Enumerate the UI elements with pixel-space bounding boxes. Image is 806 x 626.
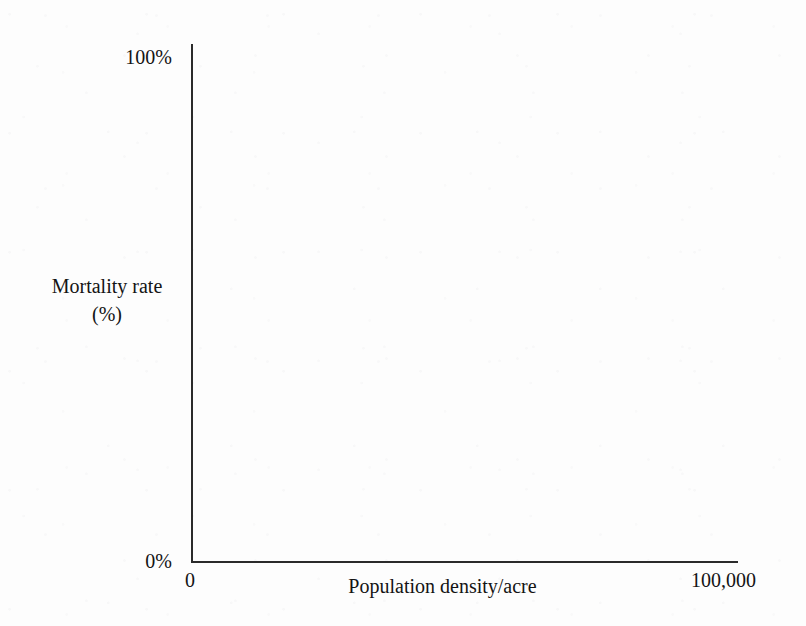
figure-page: 100% 0% 0 100,000 Mortality rate (%) Pop…	[0, 0, 806, 626]
plot-area	[193, 44, 738, 561]
x-axis-line	[191, 561, 738, 563]
y-axis-tick-label-min: 0%	[145, 551, 172, 571]
y-axis-tick-label-max: 100%	[125, 47, 172, 67]
y-axis-title: Mortality rate (%)	[12, 272, 202, 329]
mortality-vs-density-chart: 100% 0% 0 100,000 Mortality rate (%) Pop…	[0, 0, 806, 626]
y-axis-title-line-2: (%)	[12, 300, 202, 328]
y-axis-title-line-1: Mortality rate	[12, 272, 202, 300]
x-axis-title: Population density/acre	[250, 576, 635, 596]
x-axis-tick-label-min: 0	[185, 570, 195, 590]
x-axis-tick-label-max: 100,000	[691, 570, 756, 590]
